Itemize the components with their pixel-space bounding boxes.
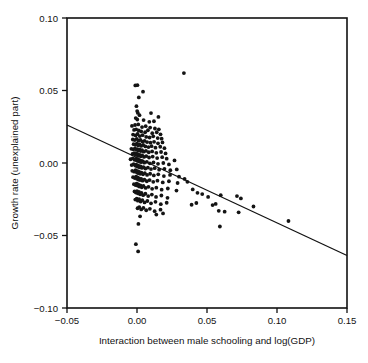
data-point	[136, 123, 140, 127]
data-point	[157, 115, 161, 119]
data-point	[160, 155, 164, 159]
x-axis: −0.050.000.050.100.15	[55, 308, 356, 326]
data-point	[206, 195, 210, 199]
x-tick-label: 0.00	[128, 315, 147, 326]
data-point	[156, 141, 160, 145]
data-point	[152, 140, 156, 144]
data-point	[190, 203, 194, 207]
data-point	[151, 134, 155, 138]
data-point	[144, 124, 148, 128]
data-point	[167, 179, 171, 183]
data-point	[214, 202, 218, 206]
data-point	[149, 201, 153, 205]
data-point	[137, 96, 141, 100]
data-point	[159, 208, 163, 212]
data-point	[155, 130, 159, 134]
data-point	[148, 136, 152, 140]
data-point	[159, 202, 163, 206]
data-point	[148, 207, 152, 211]
data-point	[137, 222, 141, 226]
x-axis-title: Interaction between male schooling and l…	[99, 335, 315, 346]
data-point	[145, 199, 149, 203]
data-point	[217, 209, 221, 213]
data-point	[147, 185, 151, 189]
data-point	[144, 208, 148, 212]
data-point	[163, 146, 167, 150]
y-tick-label: 0.10	[39, 13, 58, 24]
data-point	[156, 172, 160, 176]
data-point	[176, 181, 180, 185]
y-axis-title: Growth rate (unexplained part)	[9, 97, 20, 230]
data-point	[175, 189, 179, 193]
data-point	[152, 161, 156, 165]
data-point	[218, 225, 222, 229]
data-point	[191, 187, 195, 191]
data-point	[287, 219, 291, 223]
data-point	[160, 137, 164, 141]
y-tick-label: −0.10	[34, 303, 58, 314]
data-point	[159, 150, 163, 154]
data-point	[168, 168, 172, 172]
data-point	[155, 156, 159, 160]
data-point	[140, 125, 144, 129]
data-point	[166, 196, 170, 200]
data-point	[135, 118, 139, 122]
data-point	[146, 194, 150, 198]
data-point	[136, 250, 140, 254]
data-point	[161, 181, 165, 185]
x-tick-label: −0.05	[55, 315, 79, 326]
data-point	[147, 156, 151, 160]
data-point	[139, 129, 143, 133]
data-point	[161, 161, 165, 165]
data-point	[173, 158, 177, 162]
data-point	[145, 140, 149, 144]
data-point	[138, 113, 142, 117]
data-point	[151, 180, 155, 184]
data-point	[239, 196, 243, 200]
data-point	[196, 191, 200, 195]
data-point	[149, 111, 153, 115]
data-point	[252, 205, 256, 209]
data-point	[159, 194, 163, 198]
data-point	[156, 162, 160, 166]
data-point	[153, 127, 157, 131]
data-point	[141, 133, 145, 137]
data-point	[164, 152, 168, 156]
data-point	[154, 186, 158, 190]
data-point	[146, 128, 150, 132]
data-point	[142, 118, 146, 122]
y-tick-label: −0.05	[34, 230, 58, 241]
data-point	[150, 150, 154, 154]
data-point	[134, 242, 138, 246]
data-point	[223, 210, 227, 214]
data-point	[159, 132, 163, 136]
data-point	[165, 201, 169, 205]
data-point	[154, 151, 158, 155]
plot-background	[67, 18, 347, 308]
data-point	[165, 157, 169, 161]
data-point	[200, 192, 204, 196]
data-point	[136, 83, 140, 87]
y-axis: −0.10−0.050.000.050.10	[34, 13, 67, 314]
data-point	[150, 187, 154, 191]
data-point	[148, 172, 152, 176]
data-point	[194, 201, 198, 205]
data-point	[154, 195, 158, 199]
data-point	[160, 188, 164, 192]
data-point	[149, 141, 153, 145]
data-point	[154, 200, 158, 204]
data-point	[161, 212, 165, 216]
data-point	[147, 120, 151, 124]
data-point	[161, 141, 165, 145]
scatter-plot-figure: −0.050.000.050.100.15−0.10−0.050.000.050…	[0, 0, 368, 363]
data-point	[151, 155, 155, 159]
data-point	[135, 104, 139, 108]
data-point	[150, 144, 154, 148]
data-point	[235, 194, 239, 198]
data-point	[152, 119, 156, 123]
data-point	[133, 123, 137, 127]
y-tick-label: 0.05	[39, 85, 58, 96]
data-point	[141, 90, 145, 94]
data-point	[167, 163, 171, 167]
data-point	[152, 174, 156, 178]
